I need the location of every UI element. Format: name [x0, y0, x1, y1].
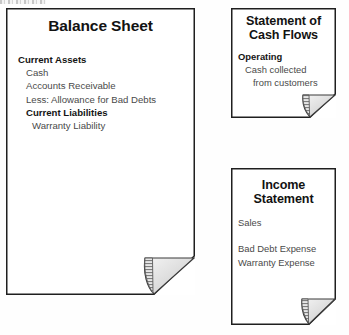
document-title-income-statement: Income Statement [231, 178, 336, 206]
document-balance-sheet: Balance Sheet Current Assets Cash Accoun… [6, 8, 195, 295]
document-content-income-statement: Income Statement Sales Bad Debt Expense … [231, 168, 336, 325]
scan-artifact [0, 0, 46, 4]
line-item: Accounts Receivable [18, 81, 156, 94]
document-body-balance-sheet: Current Assets Cash Accounts Receivable … [18, 55, 156, 134]
document-title-line: Income [231, 178, 336, 192]
document-title-line: Cash Flows [231, 28, 336, 42]
line-item: Current Liabilities [18, 108, 156, 121]
document-body-cash-flows: Operating Cash collected from customers [238, 52, 318, 92]
diagram-canvas: Balance Sheet Current Assets Cash Accoun… [0, 0, 349, 335]
document-title-cash-flows: Statement of Cash Flows [231, 14, 336, 42]
line-item: Bad Debt Expense [238, 244, 316, 257]
document-title-balance-sheet: Balance Sheet [6, 17, 195, 35]
line-item: Less: Allowance for Bad Debts [18, 95, 156, 108]
line-item: Warranty Liability [18, 121, 156, 134]
document-content-cash-flows: Statement of Cash Flows Operating Cash c… [231, 8, 336, 118]
document-title-line: Statement of [231, 14, 336, 28]
line-item: from customers [238, 78, 318, 91]
line-item: Warranty Expense [238, 258, 316, 271]
line-item: Sales [238, 218, 316, 231]
document-body-income-statement: Sales Bad Debt Expense Warranty Expense [238, 218, 316, 271]
document-title-line: Statement [231, 192, 336, 206]
document-content-balance-sheet: Balance Sheet Current Assets Cash Accoun… [6, 8, 195, 295]
document-statement-of-cash-flows: Statement of Cash Flows Operating Cash c… [231, 8, 336, 118]
document-income-statement: Income Statement Sales Bad Debt Expense … [231, 168, 336, 325]
